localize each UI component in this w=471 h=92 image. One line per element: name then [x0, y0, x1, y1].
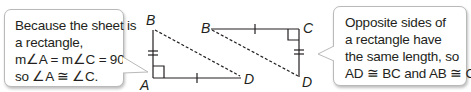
label-c: C — [303, 20, 314, 36]
label-a: A — [139, 77, 149, 92]
label-d-right: D — [302, 74, 312, 90]
diagram-canvas: B A D B C D — [0, 0, 471, 92]
right-callout-pointer — [318, 46, 334, 61]
label-b-right: B — [201, 20, 210, 36]
triangle-bcd-right — [211, 24, 304, 77]
label-d-left: D — [244, 71, 254, 87]
label-b-left: B — [146, 12, 155, 28]
left-callout-pointer — [123, 57, 148, 73]
